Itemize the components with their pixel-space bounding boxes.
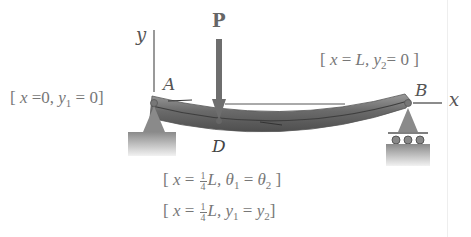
page-edge-rule <box>447 0 448 237</box>
point-d-label: D <box>212 136 226 156</box>
deflection-continuity-condition: [ x = 14L, y1 = y2] <box>163 201 275 223</box>
roller <box>404 136 412 144</box>
beam-diagram: y x P A B D [ x =0, y1 = 0] [ x = L, y2=… <box>0 0 471 237</box>
left-boundary-condition: [ x =0, y1 = 0] <box>10 88 104 109</box>
load-arrow-shaft <box>216 39 222 101</box>
right-boundary-condition: [ x = L, y2= 0 ] <box>320 50 419 71</box>
y-axis-label: y <box>136 24 146 45</box>
roller-support-triangle <box>398 108 418 132</box>
right-ground <box>386 144 430 166</box>
pin-a <box>151 100 158 107</box>
point-a-label: A <box>163 74 175 94</box>
slope-continuity-condition: [ x = 14L, θ1 = θ2 ] <box>163 170 281 192</box>
pin-b <box>405 100 412 107</box>
quarter-fraction: 14 <box>200 202 207 223</box>
quarter-fraction: 14 <box>200 171 207 192</box>
left-ground <box>128 132 176 156</box>
load-label: P <box>212 10 226 31</box>
roller <box>416 136 424 144</box>
x-axis-label: x <box>449 89 459 110</box>
point-b-label: B <box>415 80 428 100</box>
roller <box>392 136 400 144</box>
